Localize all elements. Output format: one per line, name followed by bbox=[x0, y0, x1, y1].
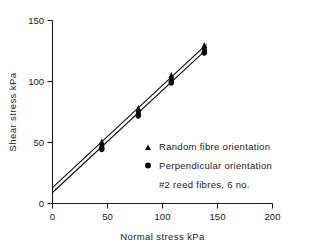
cluster-body bbox=[202, 47, 207, 54]
x-axis-title: Normal stress kPa bbox=[120, 231, 205, 242]
y-tick-label-100: 100 bbox=[28, 76, 44, 87]
x-tick-label-50: 50 bbox=[102, 211, 113, 222]
circle-marker bbox=[145, 163, 151, 169]
legend-entry-perpendicular-orientation: Perpendicular orientation bbox=[145, 160, 272, 171]
legend-note: #2 reed fibres, 6 no. bbox=[159, 179, 250, 190]
shear-stress-vs-normal-stress-chart: 150 100 50 0 0 50 100 150 200 Normal str… bbox=[0, 0, 321, 250]
y-tick-marks bbox=[48, 21, 53, 204]
legend-label-random-orientation: Random fibre orientation bbox=[159, 141, 270, 152]
chart-figure: 150 100 50 0 0 50 100 150 200 Normal str… bbox=[0, 0, 321, 250]
cluster-body bbox=[169, 77, 174, 84]
legend-entry-random-orientation: Random fibre orientation bbox=[145, 141, 270, 152]
fit-line-perpendicular-orientation bbox=[53, 49, 207, 192]
y-tick-labels: 150 100 50 0 bbox=[28, 15, 44, 209]
y-tick-label-150: 150 bbox=[28, 15, 44, 26]
x-tick-label-150: 150 bbox=[210, 211, 226, 222]
y-tick-label-50: 50 bbox=[33, 137, 44, 148]
cluster-body bbox=[136, 110, 141, 117]
data-cluster-108 bbox=[169, 72, 175, 86]
x-tick-label-0: 0 bbox=[50, 211, 55, 222]
legend-label-perpendicular-orientation: Perpendicular orientation bbox=[159, 160, 272, 171]
x-tick-label-200: 200 bbox=[265, 211, 281, 222]
legend: Random fibre orientation Perpendicular o… bbox=[145, 141, 272, 190]
x-tick-label-100: 100 bbox=[155, 211, 171, 222]
x-tick-labels: 0 50 100 150 200 bbox=[50, 211, 281, 222]
data-cluster-138 bbox=[202, 42, 208, 56]
axis-lines bbox=[53, 21, 273, 204]
cluster-body bbox=[100, 143, 105, 150]
data-cluster-78 bbox=[136, 105, 142, 119]
y-tick-label-0: 0 bbox=[39, 198, 44, 209]
x-tick-marks bbox=[53, 204, 273, 209]
triangle-marker bbox=[145, 145, 151, 151]
y-axis-title: Shear stress kPa bbox=[7, 72, 18, 151]
